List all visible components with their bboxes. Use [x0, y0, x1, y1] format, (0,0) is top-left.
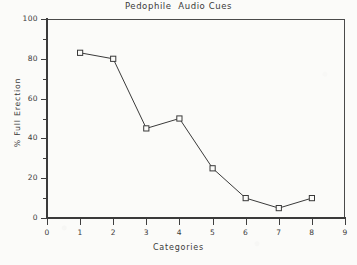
chart-figure: Pedophile Audio Cues 020406080100 012345… — [0, 0, 357, 265]
chart-title: Pedophile Audio Cues — [0, 1, 357, 11]
x-tick-9 — [345, 219, 346, 225]
y-tick-label-20: 20 — [12, 173, 38, 182]
y-minor-tick-90 — [43, 39, 47, 40]
x-tick-label-7: 7 — [269, 228, 289, 237]
y-axis-title: % Full Erection — [13, 58, 22, 168]
x-tick-6 — [246, 219, 247, 225]
x-tick-label-5: 5 — [203, 228, 223, 237]
x-tick-label-2: 2 — [103, 228, 123, 237]
y-tick-100 — [41, 19, 47, 20]
y-minor-tick-10 — [43, 198, 47, 199]
x-tick-0 — [47, 219, 48, 225]
x-tick-label-9: 9 — [335, 228, 355, 237]
y-tick-60 — [41, 99, 47, 100]
y-minor-tick-50 — [43, 119, 47, 120]
x-axis-title: Categories — [0, 243, 357, 252]
x-tick-2 — [113, 219, 114, 225]
y-tick-label-100: 100 — [12, 14, 38, 23]
y-tick-label-0: 0 — [12, 213, 38, 222]
x-tick-4 — [179, 219, 180, 225]
y-minor-tick-70 — [43, 79, 47, 80]
x-axis-line — [46, 217, 346, 219]
x-tick-1 — [80, 219, 81, 225]
x-tick-label-0: 0 — [37, 228, 57, 237]
x-tick-label-6: 6 — [236, 228, 256, 237]
y-tick-20 — [41, 178, 47, 179]
plot-area-frame — [47, 19, 345, 218]
x-tick-7 — [279, 219, 280, 225]
x-tick-label-1: 1 — [70, 228, 90, 237]
y-tick-80 — [41, 59, 47, 60]
x-tick-5 — [213, 219, 214, 225]
y-minor-tick-30 — [43, 158, 47, 159]
x-tick-label-3: 3 — [136, 228, 156, 237]
y-tick-40 — [41, 138, 47, 139]
x-tick-label-4: 4 — [169, 228, 189, 237]
x-tick-label-8: 8 — [302, 228, 322, 237]
x-tick-8 — [312, 219, 313, 225]
x-tick-3 — [146, 219, 147, 225]
